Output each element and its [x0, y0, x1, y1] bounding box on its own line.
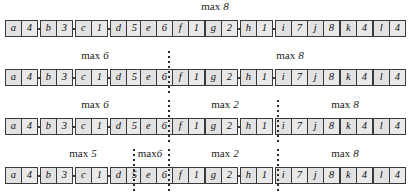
list-node: j8: [307, 118, 340, 135]
node-value: 1: [189, 21, 205, 36]
max-word: max: [138, 147, 157, 159]
max-word: max: [331, 147, 350, 159]
list-row: a4b3c1d5e6f1g2h1i7j8k4l4max 8: [0, 0, 410, 49]
max-word: max: [201, 0, 220, 12]
node-key: j: [308, 119, 324, 134]
partition-divider: [168, 51, 170, 95]
list-node: l4: [373, 69, 406, 86]
list-node: c1: [75, 167, 108, 184]
node-key: h: [241, 168, 257, 183]
list-node: k4: [340, 69, 373, 86]
max-word: max: [69, 147, 88, 159]
node-value: 1: [257, 21, 273, 36]
max-value: 8: [353, 147, 359, 159]
node-value: 4: [22, 21, 38, 36]
list-node: h1: [240, 167, 273, 184]
node-value: 1: [257, 168, 273, 183]
segment-max-label: max 5: [69, 148, 96, 159]
node-value: 4: [357, 119, 373, 134]
node-value: 3: [57, 119, 73, 134]
max-word: max: [331, 98, 350, 110]
node-value: 4: [390, 70, 406, 85]
node-key: c: [76, 168, 92, 183]
max-value: 2: [233, 98, 239, 110]
node-key: f: [173, 168, 189, 183]
node-key: i: [276, 21, 292, 36]
node-key: b: [41, 119, 57, 134]
list-node: g2: [205, 20, 238, 37]
max-value: 6: [103, 98, 109, 110]
node-key: d: [111, 168, 127, 183]
node-key: b: [41, 70, 57, 85]
list-node: e6: [140, 20, 173, 37]
node-chain: a4b3c1d5e6f1g2h1i7j8k4l4: [0, 20, 410, 38]
node-value: 1: [257, 70, 273, 85]
node-value: 7: [292, 119, 308, 134]
node-key: l: [374, 119, 390, 134]
list-node: a4: [5, 118, 38, 135]
node-value: 3: [57, 70, 73, 85]
max-word: max: [211, 98, 230, 110]
linked-list-partition-figure: a4b3c1d5e6f1g2h1i7j8k4l4max 8a4b3c1d5e6f…: [0, 0, 410, 196]
list-node: i7: [275, 69, 308, 86]
node-key: j: [308, 168, 324, 183]
node-key: f: [173, 21, 189, 36]
node-key: e: [141, 168, 157, 183]
node-key: c: [76, 70, 92, 85]
max-value: 6: [157, 147, 163, 159]
node-key: a: [6, 70, 22, 85]
list-row: a4b3c1d5e6f1g2h1i7j8k4l4max 6max 2max 8: [0, 98, 410, 147]
list-node: f1: [172, 20, 205, 37]
node-value: 1: [257, 119, 273, 134]
node-value: 6: [157, 21, 173, 36]
node-key: l: [374, 70, 390, 85]
segment-max-label: max 6: [81, 50, 108, 61]
node-key: k: [341, 119, 357, 134]
node-value: 1: [189, 168, 205, 183]
node-value: 2: [222, 21, 238, 36]
max-value: 8: [223, 0, 229, 12]
segment-max-label: max 6: [138, 148, 162, 159]
list-node: h1: [240, 69, 273, 86]
node-value: 4: [357, 168, 373, 183]
list-node: f1: [172, 69, 205, 86]
max-word: max: [276, 49, 295, 61]
node-value: 8: [324, 168, 340, 183]
list-node: g2: [205, 118, 238, 135]
list-node: a4: [5, 20, 38, 37]
max-value: 2: [233, 147, 239, 159]
partition-divider: [168, 100, 170, 144]
node-value: 4: [22, 119, 38, 134]
list-node: d5: [110, 20, 143, 37]
node-value: 4: [390, 168, 406, 183]
node-value: 7: [292, 70, 308, 85]
partition-divider: [168, 149, 170, 193]
node-key: g: [206, 119, 222, 134]
max-value: 8: [353, 98, 359, 110]
node-value: 1: [189, 119, 205, 134]
list-node: j8: [307, 20, 340, 37]
node-key: j: [308, 21, 324, 36]
node-value: 4: [22, 70, 38, 85]
node-value: 8: [324, 70, 340, 85]
node-key: h: [241, 119, 257, 134]
list-node: l4: [373, 20, 406, 37]
node-key: b: [41, 21, 57, 36]
max-value: 8: [298, 49, 304, 61]
node-value: 3: [57, 21, 73, 36]
node-key: a: [6, 168, 22, 183]
list-node: b3: [40, 167, 73, 184]
partition-divider: [133, 149, 135, 193]
list-node: d5: [110, 167, 143, 184]
node-value: 4: [22, 168, 38, 183]
max-value: 5: [91, 147, 97, 159]
node-value: 4: [390, 21, 406, 36]
list-node: j8: [307, 167, 340, 184]
node-key: d: [111, 70, 127, 85]
list-row: a4b3c1d5e6f1g2h1i7j8k4l4max 5max 6max 2m…: [0, 147, 410, 196]
list-node: i7: [275, 20, 308, 37]
segment-max-label: max 8: [331, 148, 358, 159]
node-key: e: [141, 70, 157, 85]
list-node: f1: [172, 167, 205, 184]
node-value: 1: [92, 21, 108, 36]
